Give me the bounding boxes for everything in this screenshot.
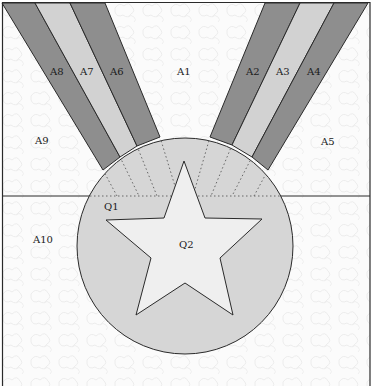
label-a8: A8 [49,66,64,77]
label-a4: A4 [306,66,321,77]
label-a5: A5 [320,136,335,147]
label-a7: A7 [79,66,94,77]
label-a10: A10 [32,234,53,245]
label-a6: A6 [109,66,124,77]
label-q1: Q1 [104,201,119,212]
label-a9: A9 [34,135,49,146]
label-a1: A1 [176,66,191,77]
quilt-diagram: A8 A7 A6 A1 A2 A3 A4 A9 A5 A10 Q1 Q2 [0,0,375,386]
label-a2: A2 [245,66,260,77]
label-a3: A3 [275,66,290,77]
label-q2: Q2 [179,239,194,250]
